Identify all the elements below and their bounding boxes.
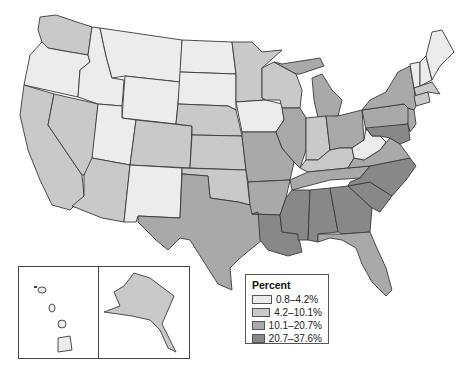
legend-label: 0.8–4.2% [276, 294, 318, 305]
legend-title: Percent [252, 279, 322, 291]
legend-item: 20.7–37.6% [252, 332, 322, 345]
legend-swatch [252, 321, 265, 330]
state-me [426, 30, 454, 80]
state-wy [122, 76, 180, 124]
state-mi-lower [312, 74, 342, 118]
state-nd [180, 40, 236, 74]
state-ks [190, 135, 246, 170]
state-ia [236, 100, 284, 132]
legend-label: 4.2–10.1% [274, 307, 322, 318]
legend: Percent 0.8–4.2% 4.2–10.1% 10.1–20.7% 20… [245, 274, 329, 344]
state-nj [408, 108, 416, 132]
state-co [130, 120, 192, 168]
state-nm [124, 165, 182, 222]
legend-label: 10.1–20.7% [269, 320, 322, 331]
legend-item: 4.2–10.1% [252, 306, 322, 319]
legend-swatch [252, 334, 265, 343]
legend-item: 10.1–20.7% [252, 319, 322, 332]
alaska-inset [98, 266, 190, 359]
legend-swatch [252, 295, 272, 304]
state-mt [100, 28, 182, 82]
legend-item: 0.8–4.2% [252, 293, 322, 306]
legend-swatch [252, 308, 270, 317]
hawaii-inset [18, 266, 100, 359]
legend-label: 20.7–37.6% [269, 333, 322, 344]
state-ny [362, 66, 416, 110]
state-fl [318, 232, 392, 296]
